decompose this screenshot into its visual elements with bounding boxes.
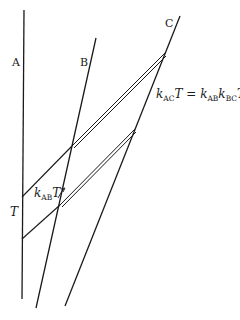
eq-t2: T [237,87,240,101]
label-line-c: C [165,17,173,30]
worldline-a [22,10,24,299]
worldline-diagram [0,0,240,320]
label-line-a: A [12,56,20,69]
eq-equals: = [182,87,200,101]
label-period-t: T [10,205,18,219]
signal-lower-b-to-c [60,129,136,207]
signal-lower-a-to-b [22,205,60,239]
kab-sub: AB [41,193,52,202]
eq-sub2: AB [207,94,218,103]
kab-t: T [52,186,60,200]
label-equation: kACT = kABkBCT [156,87,240,103]
eq-sub1: AC [163,94,174,103]
label-kab-t: kABT [34,186,60,202]
label-line-b: B [80,56,88,69]
eq-k3: k [218,87,225,101]
eq-sub3: BC [226,94,237,103]
